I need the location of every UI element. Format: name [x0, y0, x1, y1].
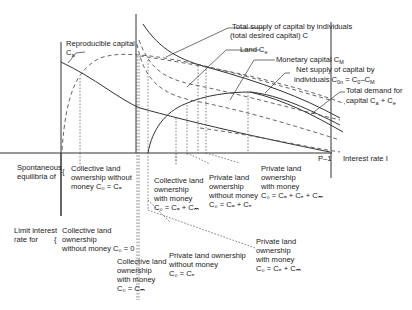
- case-private-with-money: Private land ownership with money C₀ = C…: [260, 164, 323, 200]
- case-limit-collective-with-money: Collective land ownership with money C₀ …: [116, 257, 166, 293]
- label-total-supply-2: (total desired capital) C: [230, 31, 309, 40]
- label-total-demand-2: capital Ca + Ce: [346, 96, 396, 106]
- curve-monetary-capital: [148, 92, 340, 153]
- case-collective-no-money: Collective land ownership without money …: [71, 164, 133, 191]
- label-limit-2: rate for: [14, 235, 39, 244]
- svg-text:ownership: ownership: [209, 182, 244, 191]
- diagram-canvas: Reproducible capital Ca Total supply of …: [0, 0, 412, 310]
- svg-text:ownership: ownership: [256, 246, 291, 255]
- arrow-case: [148, 210, 255, 248]
- label-land: Land Ce: [240, 45, 268, 55]
- case-limit-private-no-money: Private land ownership without money C₀ …: [168, 251, 246, 278]
- svg-text:with money: with money: [255, 255, 295, 264]
- label-net-supply-2: individuals C0n = C0–CM: [294, 75, 375, 85]
- svg-text:Collective land: Collective land: [154, 176, 203, 185]
- svg-text:with money: with money: [153, 194, 193, 203]
- label-total-supply-1: Total supply of capital by individuals: [232, 22, 353, 31]
- leader-monetary: [230, 60, 275, 100]
- svg-text:with money: with money: [260, 182, 300, 191]
- svg-text:C₀ = Cₑ: C₀ = Cₑ: [169, 269, 195, 278]
- svg-text:with money: with money: [116, 275, 156, 284]
- svg-text:Collective land: Collective land: [71, 164, 120, 173]
- svg-text:without money C₀ = 0: without money C₀ = 0: [61, 244, 135, 253]
- brace-icon: {: [62, 167, 65, 176]
- svg-text:ownership: ownership: [154, 185, 189, 194]
- label-monetary-capital: Monetary capital CM: [276, 55, 344, 65]
- label-interest-rate: Interest rate I: [343, 154, 388, 163]
- curve-reproducible-capital: [61, 62, 330, 152]
- svg-text:Private land: Private land: [209, 173, 249, 182]
- case-collective-with-money: Collective land ownership with money C₀ …: [153, 176, 203, 212]
- svg-text:Private land: Private land: [261, 164, 301, 173]
- svg-text:C₀ = Cₑ + Cₘ: C₀ = Cₑ + Cₘ: [256, 264, 301, 273]
- svg-text:Private land: Private land: [256, 237, 296, 246]
- arrow-case: [206, 153, 240, 163]
- label-spontaneous-2: equilibria of: [17, 172, 57, 181]
- label-ca: Ca: [66, 48, 75, 58]
- svg-text:C₀ = Cₐ + Cₑ + Cₘ: C₀ = Cₐ + Cₑ + Cₘ: [261, 191, 323, 200]
- svg-text:without money: without money: [208, 191, 258, 200]
- svg-text:ownership: ownership: [62, 235, 97, 244]
- capital-interest-diagram: Reproducible capital Ca Total supply of …: [0, 0, 412, 310]
- label-net-supply-1: Net supply of capital by: [296, 65, 375, 74]
- svg-text:C₀ = Cₐ + Cₘ: C₀ = Cₐ + Cₘ: [154, 203, 199, 212]
- svg-text:without money: without money: [168, 260, 218, 269]
- svg-text:C₀ = Cₐ + Cₑ: C₀ = Cₐ + Cₑ: [209, 200, 252, 209]
- svg-text:ownership: ownership: [261, 173, 296, 182]
- label-total-demand-1: Total demand for: [346, 86, 403, 95]
- case-limit-private-with-money: Private land ownership with money C₀ = C…: [255, 237, 301, 273]
- svg-text:Private land ownership: Private land ownership: [169, 251, 246, 260]
- svg-text:Collective land: Collective land: [62, 226, 111, 235]
- label-limit-1: Limit interest: [14, 226, 58, 235]
- label-reproducible-capital: Reproducible capital: [66, 39, 135, 48]
- svg-text:money C₀ = Cₐ: money C₀ = Cₐ: [71, 182, 122, 191]
- label-spontaneous-1: Spontaneous: [17, 163, 62, 172]
- case-private-no-money: Private land ownership without money C₀ …: [208, 173, 258, 209]
- svg-text:ownership without: ownership without: [71, 173, 133, 182]
- label-p1: P–1: [318, 154, 332, 163]
- svg-text:Collective land: Collective land: [117, 257, 166, 266]
- case-limit-collective-no-money: Collective land ownership without money …: [61, 226, 135, 253]
- svg-text:ownership: ownership: [117, 266, 152, 275]
- arrow-case: [187, 153, 210, 164]
- svg-text:C₀ = Cₘ: C₀ = Cₘ: [117, 284, 145, 293]
- brace-icon: {: [54, 235, 57, 244]
